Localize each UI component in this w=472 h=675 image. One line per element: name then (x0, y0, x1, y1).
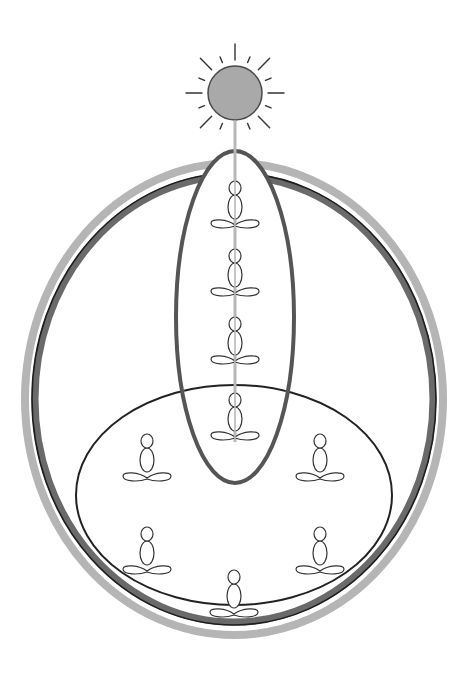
figure-body (140, 448, 154, 472)
meditator-bottom-center (210, 570, 258, 617)
figure-head (314, 527, 326, 541)
figure-head (228, 570, 240, 584)
sun-ray (199, 106, 205, 108)
sun-disc (208, 66, 262, 120)
figure-body (313, 541, 327, 565)
figure-body (313, 448, 327, 472)
sun-ray (220, 123, 222, 129)
figure-body (140, 541, 154, 565)
figure-legs (210, 609, 258, 617)
figure-head (314, 434, 326, 448)
sun-ray (258, 116, 269, 127)
sun-ray (199, 78, 205, 80)
sun-ray (248, 57, 250, 63)
figure-legs (123, 473, 171, 481)
figure-legs (296, 473, 344, 481)
figure-head (141, 434, 153, 448)
sun-icon (186, 44, 284, 129)
diagram-canvas (0, 0, 472, 675)
sun-ray (265, 106, 271, 108)
figure-legs (123, 566, 171, 574)
figure-body (227, 584, 241, 608)
meditator-lower-right (296, 527, 344, 574)
sun-ray (200, 58, 211, 69)
diagram-svg (0, 0, 472, 675)
figure-head (141, 527, 153, 541)
figure-legs (296, 566, 344, 574)
sun-ray (258, 58, 269, 69)
sun-ray (248, 123, 250, 129)
meditator-upper-left (123, 434, 171, 481)
meditator-lower-left (123, 527, 171, 574)
sun-ray (200, 116, 211, 127)
sun-ray (220, 57, 222, 63)
sun-ray (265, 78, 271, 80)
meditator-upper-right (296, 434, 344, 481)
